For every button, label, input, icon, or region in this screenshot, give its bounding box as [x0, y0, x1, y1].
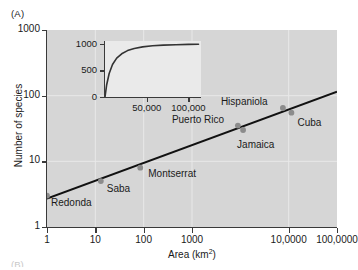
y-tick-label: 100 [0, 89, 40, 100]
x-tick-mark [337, 228, 338, 233]
inset-y-axis-spine [104, 41, 105, 98]
x-tick-mark [289, 228, 290, 233]
x-axis-title-close: ) [213, 249, 216, 260]
x-tick-label: 10,0000 [271, 234, 307, 245]
panel-label-b-cropped: (B) [11, 259, 24, 267]
inset-y-tick-label: 500 [67, 64, 97, 75]
inset-y-tick-mark [100, 44, 104, 45]
data-point-montserrat [137, 165, 143, 171]
inset-curve-path [105, 44, 199, 97]
y-tick-mark [42, 96, 47, 97]
x-tick-label: 10 [90, 234, 101, 245]
x-tick-label: 100,0000 [316, 234, 358, 245]
data-point-puerto-rico [235, 123, 241, 129]
y-tick-label: 1 [0, 220, 40, 231]
y-axis-spine [46, 30, 47, 228]
inset-plot-area [105, 41, 201, 97]
point-label-montserrat: Montserrat [148, 168, 196, 179]
x-tick-mark [47, 228, 48, 233]
data-point-saba [98, 178, 104, 184]
x-tick-mark [95, 228, 96, 233]
y-tick-label: 10 [0, 154, 40, 165]
inset-y-tick-mark [100, 97, 104, 98]
y-tick-mark [42, 161, 47, 162]
y-tick-mark [42, 30, 47, 31]
x-tick-mark [144, 228, 145, 233]
data-point-hispaniola [280, 105, 286, 111]
point-label-jamaica: Jamaica [237, 139, 274, 150]
inset-plot-svg [105, 41, 201, 97]
inset-x-axis-spine [104, 97, 201, 98]
y-tick-label: 1000 [0, 23, 40, 34]
point-label-cuba: Cuba [297, 117, 321, 128]
inset-y-tick-label: 1000 [67, 38, 97, 49]
inset-y-tick-mark [100, 70, 104, 71]
inset-y-tick-label: 0 [67, 91, 97, 102]
inset-x-tick-label: 100,000 [171, 102, 205, 113]
x-axis-title-text: Area (km [168, 249, 209, 260]
point-label-saba: Saba [107, 183, 130, 194]
inset-x-tick-label: 50,000 [132, 102, 161, 113]
x-tick-label: 1 [44, 234, 50, 245]
x-tick-label: 1000 [181, 234, 203, 245]
data-point-jamaica [240, 127, 246, 133]
point-label-hispaniola: Hispaniola [221, 96, 268, 107]
y-axis-title: Number of species [13, 56, 24, 196]
x-axis-title: Area (km2) [47, 249, 337, 260]
x-tick-mark [192, 228, 193, 233]
inset-curve [105, 44, 199, 97]
inset-chart: 05001000 50,000100,000 [73, 41, 201, 117]
data-point-cuba [289, 110, 295, 116]
panel-label-a: (A) [11, 8, 24, 19]
x-tick-label: 100 [135, 234, 152, 245]
point-label-redonda: Redonda [51, 197, 92, 208]
